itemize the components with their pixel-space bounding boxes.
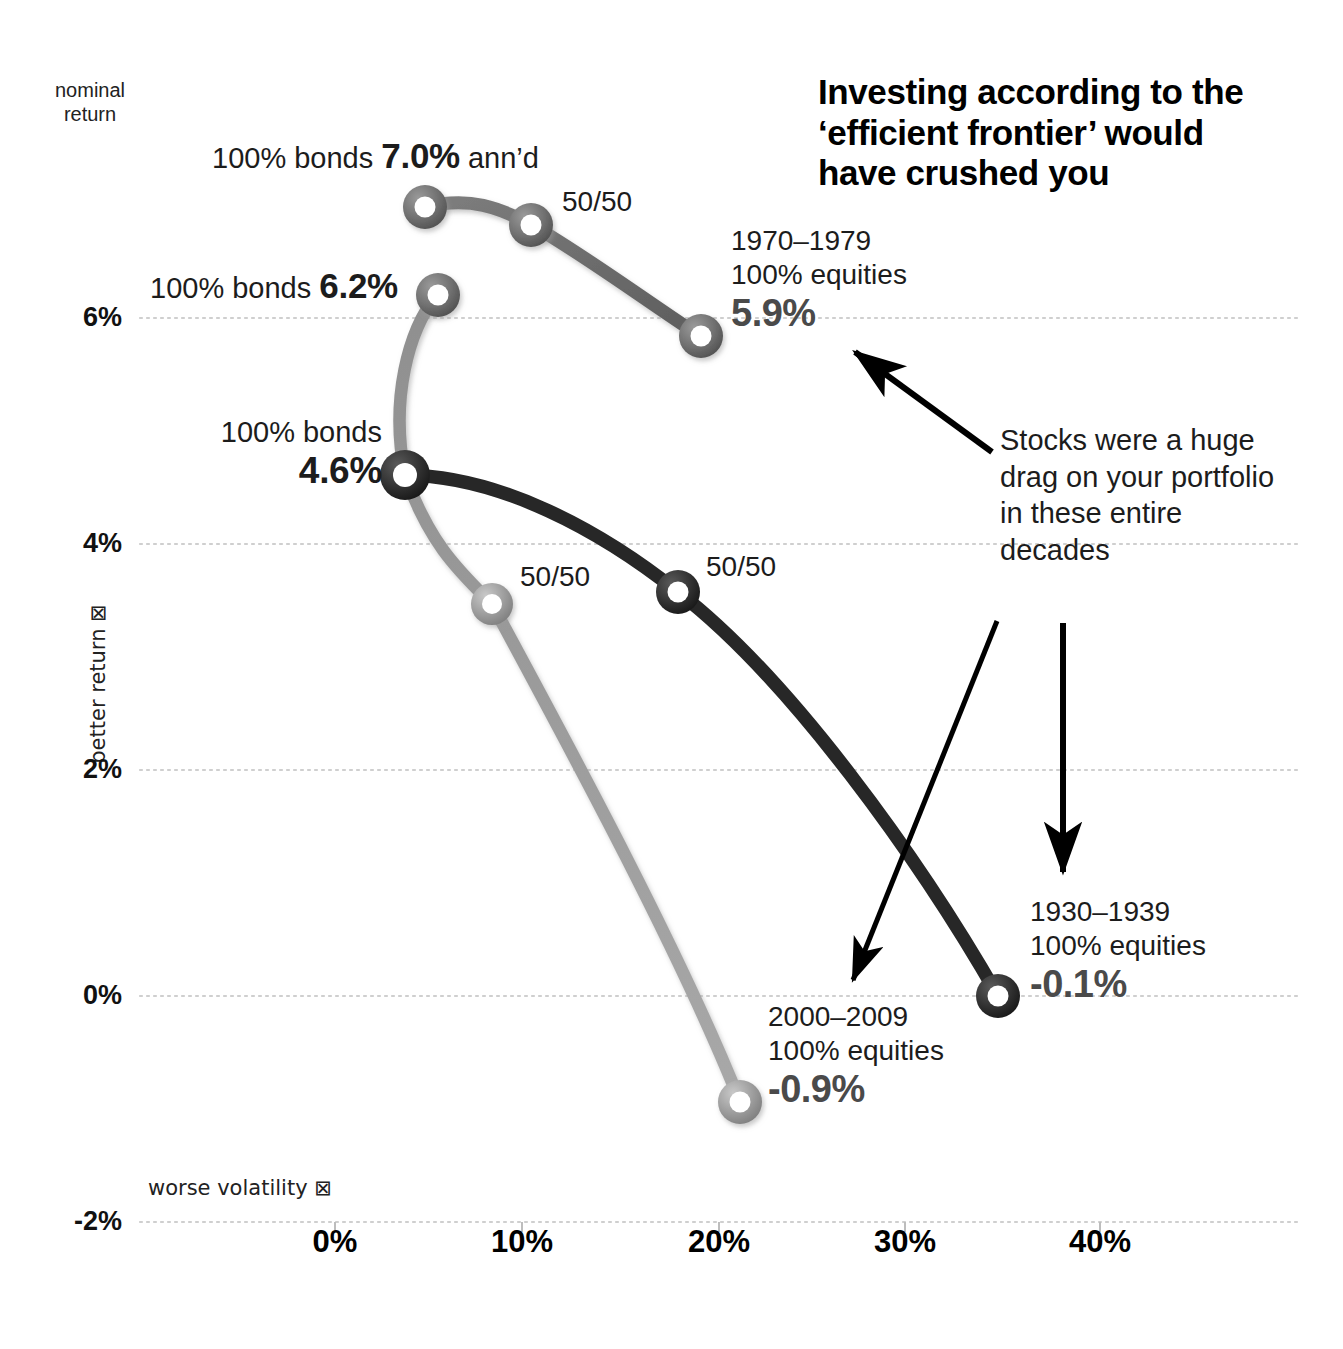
- series-curve-1930: [405, 475, 998, 996]
- point-1970-bonds[interactable]: [403, 185, 447, 229]
- series-curve-2000: [400, 295, 740, 1102]
- page-title: Investing according to the ‘efficient fr…: [818, 72, 1288, 194]
- label-1930-bonds-prefix: 100% bonds: [206, 415, 382, 449]
- label-2000-alloc: 100% equities: [768, 1034, 944, 1068]
- label-1930-value: -0.1%: [1030, 962, 1206, 1008]
- y-tick-0: 0%: [36, 980, 122, 1011]
- label-1970-5050: 50/50: [562, 185, 632, 218]
- chart-plot-area: [0, 0, 1343, 1349]
- label-1970-bonds-prefix: 100% bonds: [212, 142, 381, 174]
- label-1930-5050: 50/50: [706, 550, 776, 583]
- x-tick-20: 20%: [659, 1224, 779, 1260]
- label-1970-bonds-value: 7.0%: [381, 136, 460, 175]
- point-1930-equities[interactable]: [976, 974, 1020, 1018]
- callout-arrow-1970: [855, 352, 992, 452]
- label-1970-bonds-suffix: ann’d: [460, 142, 539, 174]
- label-1970-alloc: 100% equities: [731, 258, 907, 292]
- label-2000-decade: 2000–2009: [768, 1000, 944, 1034]
- label-1970-decade: 1970–1979: [731, 224, 907, 258]
- series-curve-1970: [425, 203, 700, 336]
- label-2000-value: -0.9%: [768, 1067, 944, 1113]
- point-2000-bonds[interactable]: [416, 273, 460, 317]
- x-tick-30: 30%: [845, 1224, 965, 1260]
- y-tick-4: 4%: [36, 528, 122, 559]
- point-1970-5050[interactable]: [509, 203, 553, 247]
- label-2000-bonds-value: 6.2%: [319, 266, 398, 305]
- efficient-frontier-chart: Investing according to the ‘efficient fr…: [0, 0, 1343, 1349]
- label-1930-bonds-value: 4.6%: [206, 449, 382, 493]
- label-1930-equities: 1930–1939 100% equities -0.1%: [1030, 895, 1206, 1008]
- y-tick-neg2: -2%: [36, 1206, 122, 1237]
- y-tick-2: 2%: [36, 754, 122, 785]
- point-2000-5050[interactable]: [471, 583, 513, 625]
- callout-text: Stocks were a huge drag on your portfoli…: [1000, 422, 1290, 568]
- label-1930-bonds: 100% bonds 4.6%: [206, 415, 382, 493]
- point-2000-equities[interactable]: [718, 1080, 762, 1124]
- x-tick-0: 0%: [275, 1224, 395, 1260]
- label-1930-decade: 1930–1939: [1030, 895, 1206, 929]
- point-1930-5050[interactable]: [656, 570, 700, 614]
- label-2000-bonds-prefix: 100% bonds: [150, 272, 319, 304]
- label-1970-equities: 1970–1979 100% equities 5.9%: [731, 224, 907, 337]
- point-1930-bonds[interactable]: [380, 450, 430, 500]
- label-2000-bonds: 100% bonds 6.2%: [150, 265, 398, 306]
- y-axis-title: nominal return: [42, 78, 138, 126]
- point-1970-equities[interactable]: [679, 314, 723, 358]
- label-1970-value: 5.9%: [731, 291, 907, 337]
- y-tick-6: 6%: [36, 302, 122, 333]
- x-tick-10: 10%: [462, 1224, 582, 1260]
- label-2000-equities: 2000–2009 100% equities -0.9%: [768, 1000, 944, 1113]
- label-2000-5050: 50/50: [520, 560, 590, 593]
- label-1970-bonds: 100% bonds 7.0% ann’d: [212, 135, 539, 176]
- x-axis-direction-label: worse volatility ⊠: [148, 1176, 332, 1200]
- label-1930-alloc: 100% equities: [1030, 929, 1206, 963]
- x-tick-40: 40%: [1040, 1224, 1160, 1260]
